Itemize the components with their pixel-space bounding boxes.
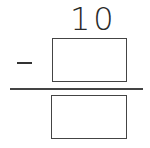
minus-sign-icon [17,62,32,64]
difference-input-box[interactable] [51,95,127,139]
equals-line [10,88,143,90]
minuend-number: 10 [70,1,120,37]
subtrahend-input-box[interactable] [52,38,127,82]
